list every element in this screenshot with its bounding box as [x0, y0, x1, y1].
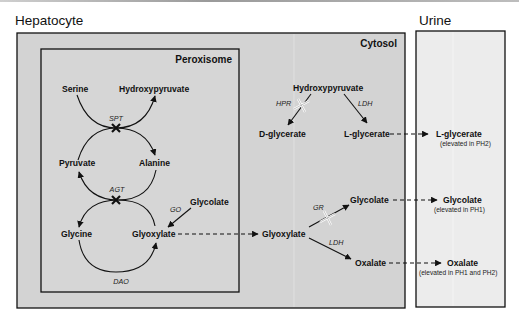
cytosol-label: Cytosol [360, 38, 397, 49]
glycine-label: Glycine [61, 229, 92, 239]
urine-l-glycerate-label: L-glycerate [436, 129, 482, 139]
urine-oxalate-label: Oxalate [447, 258, 478, 268]
peroxisome-label: Peroxisome [175, 54, 232, 65]
oxalate-label: Oxalate [355, 258, 386, 268]
cytosol-hydroxypyruvate-label: Hydroxypyruvate [293, 83, 363, 93]
peroxisome-glycolate-label: Glycolate [190, 197, 229, 207]
dao-enzyme-label: DAO [113, 277, 129, 286]
glyoxylate-label: Glyoxylate [132, 229, 176, 239]
d-glycerate-label: D-glycerate [259, 129, 306, 139]
urine-oxalate-note: (elevated in PH1 and PH2) [419, 269, 497, 277]
pyruvate-label: Pyruvate [59, 158, 96, 168]
cytosol-glyoxylate-label: Glyoxylate [262, 229, 306, 239]
gr-enzyme-label: GR [313, 203, 324, 212]
urine-glycolate-label: Glycolate [443, 195, 482, 205]
go-enzyme-label: GO [170, 205, 182, 214]
urine-glycolate-note: (elevated in PH1) [434, 206, 485, 214]
pathway-diagram: Peroxisome Cytosol Serine Hydroxypyruvat… [0, 0, 519, 320]
serine-label: Serine [62, 84, 88, 94]
agt-enzyme-label: AGT [109, 185, 125, 194]
urine-l-glycerate-note: (elevated in PH2) [440, 140, 491, 148]
l-glycerate-label: L-glycerate [344, 129, 390, 139]
hpr-enzyme-label: HPR [276, 99, 291, 108]
ldh-top-enzyme-label: LDH [358, 99, 373, 108]
ldh-bottom-enzyme-label: LDH [329, 238, 344, 247]
cytosol-glycolate-label: Glycolate [350, 195, 389, 205]
alanine-label: Alanine [139, 158, 170, 168]
spt-enzyme-label: SPT [109, 114, 124, 123]
hydroxypyruvate-label: Hydroxypyruvate [119, 84, 189, 94]
